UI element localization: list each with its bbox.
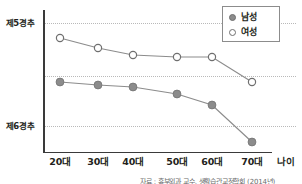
legend-item-male: 남성 — [229, 10, 279, 25]
series-line-female — [60, 38, 252, 82]
data-point-female-60 — [208, 53, 215, 60]
data-point-female-50 — [173, 53, 180, 60]
cervical-spine-line-chart: 제5경추 제6경추 20대 30대 40대 50대 60대 70대 나이 남성 — [0, 0, 302, 184]
data-point-male-70 — [248, 138, 256, 146]
x-tick-label-30: 30대 — [81, 157, 115, 167]
x-tick-label-50: 50대 — [160, 157, 194, 167]
data-point-female-30 — [94, 44, 101, 51]
data-point-female-40 — [129, 51, 136, 58]
data-point-male-30 — [94, 81, 102, 89]
data-point-male-40 — [129, 83, 137, 91]
x-tick-label-20: 20대 — [43, 157, 77, 167]
x-axis-title: 나이 — [277, 157, 294, 167]
chart-legend: 남성 여성 — [222, 6, 280, 42]
x-tick-label-40: 40대 — [116, 157, 150, 167]
data-point-male-50 — [173, 90, 181, 98]
data-point-female-20 — [56, 34, 63, 41]
legend-item-female: 여성 — [229, 25, 279, 40]
data-point-male-20 — [56, 78, 64, 86]
x-tick-label-60: 60대 — [195, 157, 229, 167]
x-tick-label-70: 70대 — [235, 157, 269, 167]
series-line-male — [60, 82, 252, 142]
legend-label-male: 남성 — [241, 13, 256, 22]
filled-circle-icon — [229, 14, 236, 21]
legend-label-female: 여성 — [241, 28, 256, 37]
source-caption: 자료 : 흉부외과 교수, 생활습관교정학회 (2014년) — [140, 176, 275, 184]
data-point-female-70 — [248, 78, 255, 85]
open-circle-icon — [229, 29, 236, 36]
data-point-male-60 — [208, 101, 216, 109]
